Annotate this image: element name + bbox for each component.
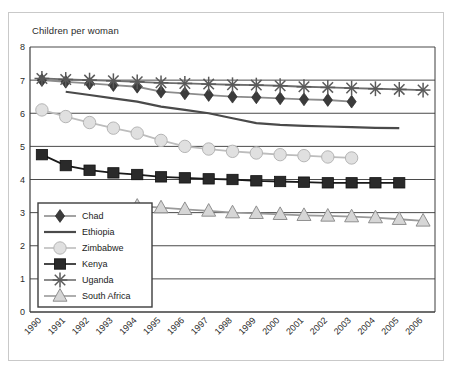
data-point-marker (226, 145, 238, 157)
chart-figure: Children per woman 012345678199019911992… (0, 0, 452, 372)
y-axis-tick-label: 1 (20, 274, 25, 284)
data-point-marker (36, 149, 47, 159)
data-point-marker (84, 165, 95, 175)
data-point-marker (321, 209, 335, 222)
legend-item-label: Kenya (82, 259, 108, 269)
data-point-marker (203, 174, 214, 184)
x-axis-tick-label: 1996 (165, 315, 186, 336)
x-axis-tick-label: 2000 (260, 315, 281, 336)
x-axis-tick-label: 1998 (213, 315, 234, 336)
legend-item-zimbabwe[interactable]: Zimbabwe (44, 242, 124, 254)
data-point-marker (346, 178, 357, 188)
data-point-marker (276, 92, 285, 105)
x-axis-tick-label: 2003 (332, 315, 353, 336)
y-axis-tick-label: 3 (20, 208, 25, 218)
x-axis-tick-label: 1994 (117, 315, 138, 336)
data-point-marker (345, 209, 359, 222)
data-point-marker (322, 151, 334, 163)
data-point-marker (107, 122, 119, 134)
legend-item-label: Chad (82, 211, 104, 221)
data-point-marker (155, 134, 167, 146)
x-axis-tick-label: 2005 (379, 315, 400, 336)
data-point-marker (250, 147, 262, 159)
y-axis-tick-label: 8 (20, 42, 25, 52)
data-point-marker (132, 169, 143, 179)
data-point-marker (179, 173, 190, 183)
legend-item-label: Zimbabwe (82, 243, 124, 253)
y-axis-tick-label: 7 (20, 76, 25, 86)
x-axis-tick-label: 2006 (403, 315, 424, 336)
y-axis-tick-label: 5 (20, 142, 25, 152)
data-point-marker (179, 140, 191, 152)
chart-canvas: 0123456781990199119921993199419951996199… (0, 0, 452, 372)
chart-legend: ChadEthiopiaZimbabweKenyaUgandaSouth Afr… (38, 203, 152, 307)
x-axis-tick-label: 2002 (308, 315, 329, 336)
y-axis-tick-label: 2 (20, 241, 25, 251)
x-axis-tick-label: 2001 (284, 315, 305, 336)
legend-item-label: South Africa (82, 291, 131, 301)
data-point-marker (60, 160, 71, 170)
x-axis-tick-label: 1990 (22, 315, 43, 336)
data-point-marker (347, 95, 356, 108)
data-point-marker (298, 177, 309, 187)
data-point-marker (54, 259, 65, 269)
data-point-marker (323, 94, 332, 107)
data-point-marker (298, 149, 310, 161)
x-axis-tick-label: 1997 (189, 315, 210, 336)
data-point-marker (108, 168, 119, 178)
data-point-marker (155, 172, 166, 182)
data-point-marker (275, 176, 286, 186)
data-point-marker (227, 174, 238, 184)
data-point-marker (394, 178, 405, 188)
data-point-marker (54, 242, 66, 254)
data-point-marker (202, 143, 214, 155)
y-axis-tick-label: 4 (20, 175, 25, 185)
data-point-marker (131, 127, 143, 139)
x-axis-tick-label: 2004 (356, 315, 377, 336)
data-point-marker (252, 91, 261, 104)
x-axis-tick-label: 1993 (94, 315, 115, 336)
data-point-marker (251, 176, 262, 186)
data-point-marker (83, 116, 95, 128)
data-point-marker (228, 90, 237, 103)
data-point-marker (36, 104, 48, 116)
data-point-marker (345, 152, 357, 164)
data-point-marker (274, 148, 286, 160)
data-point-marker (322, 178, 333, 188)
data-point-marker (299, 93, 308, 106)
x-axis-tick-label: 1995 (141, 315, 162, 336)
y-axis-tick-label: 6 (20, 109, 25, 119)
y-axis-tick-label: 0 (20, 307, 25, 317)
data-point-marker (370, 178, 381, 188)
x-axis-tick-label: 1999 (237, 315, 258, 336)
data-point-marker (60, 110, 72, 122)
legend-item-label: Ethiopia (82, 227, 115, 237)
x-axis-tick-label: 1991 (46, 315, 67, 336)
x-axis-tick-label: 1992 (70, 315, 91, 336)
legend-item-label: Uganda (82, 275, 114, 285)
